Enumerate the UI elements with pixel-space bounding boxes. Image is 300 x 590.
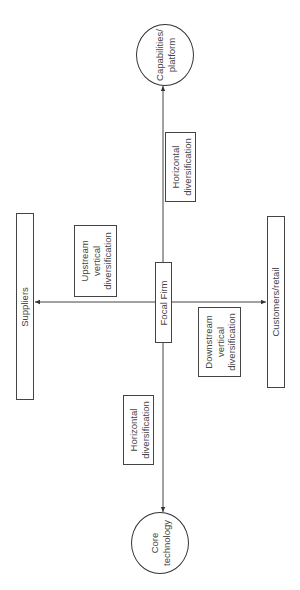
focal-firm-label: Focal Firm: [158, 280, 170, 325]
customers-retail-label: Customers/retail: [270, 267, 282, 336]
customers-retail-node: Customers/retail: [267, 216, 285, 388]
upstream-vertical-diversification-label: Upstream vertical diversification: [78, 232, 113, 290]
capabilities-platform-node: Capabilities/ platform: [136, 24, 194, 86]
downstream-vertical-diversification-label: Downstream vertical diversification: [202, 313, 237, 371]
capabilities-platform-label: Capabilities/ platform: [154, 29, 177, 81]
lower-horizontal-diversification-label-box: Horizontal diversification: [123, 395, 154, 465]
connector-lines: [0, 0, 300, 590]
core-technology-node: Core technology: [131, 512, 189, 574]
focal-firm-node: Focal Firm: [155, 262, 172, 343]
upper-horizontal-diversification-label: Horizontal diversification: [169, 138, 192, 196]
suppliers-label: Suppliers: [19, 287, 31, 327]
lower-horizontal-diversification-label: Horizontal diversification: [127, 401, 150, 459]
downstream-vertical-diversification-label-box: Downstream vertical diversification: [198, 307, 241, 377]
upper-horizontal-diversification-label-box: Horizontal diversification: [165, 132, 196, 202]
core-technology-label: Core technology: [149, 520, 172, 566]
upstream-vertical-diversification-label-box: Upstream vertical diversification: [74, 225, 117, 297]
suppliers-node: Suppliers: [16, 213, 34, 400]
